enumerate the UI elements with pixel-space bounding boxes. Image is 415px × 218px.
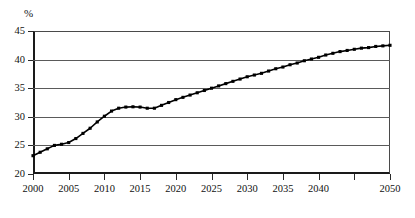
data-point-marker bbox=[74, 137, 77, 140]
data-point-marker bbox=[196, 91, 199, 94]
x-tick-mark bbox=[104, 174, 105, 180]
data-point-marker bbox=[160, 104, 163, 107]
data-point-marker bbox=[46, 147, 49, 150]
x-tick-label: 2030 bbox=[227, 184, 267, 195]
data-point-marker bbox=[31, 154, 34, 157]
data-point-marker bbox=[67, 141, 70, 144]
data-point-marker bbox=[146, 107, 149, 110]
x-tick-mark bbox=[319, 174, 320, 180]
y-tick-label: 25 bbox=[1, 140, 25, 151]
x-tick-mark bbox=[176, 174, 177, 180]
y-axis-unit-label: % bbox=[24, 8, 33, 19]
data-point-marker bbox=[203, 89, 206, 92]
x-tick-mark bbox=[212, 174, 213, 180]
data-point-marker bbox=[89, 127, 92, 130]
y-tick-label: 35 bbox=[1, 83, 25, 94]
data-point-marker bbox=[39, 151, 42, 154]
data-point-marker bbox=[53, 144, 56, 147]
data-point-marker bbox=[317, 56, 320, 59]
data-point-marker bbox=[338, 50, 341, 53]
data-point-marker bbox=[217, 84, 220, 87]
data-point-marker bbox=[324, 53, 327, 56]
line-chart: % 202530354045 2000200520102015202020252… bbox=[0, 0, 415, 218]
x-tick-label: 2035 bbox=[263, 184, 303, 195]
data-point-marker bbox=[181, 96, 184, 99]
x-tick-mark bbox=[247, 174, 248, 180]
data-point-marker bbox=[388, 44, 391, 47]
data-point-marker bbox=[139, 106, 142, 109]
x-tick-mark bbox=[354, 174, 355, 180]
data-point-marker bbox=[367, 46, 370, 49]
data-point-marker bbox=[310, 57, 313, 60]
data-point-marker bbox=[131, 105, 134, 108]
data-point-marker bbox=[381, 44, 384, 47]
x-tick-label: 2050 bbox=[370, 184, 410, 195]
y-tick-label: 45 bbox=[1, 26, 25, 37]
data-point-marker bbox=[260, 72, 263, 75]
data-point-marker bbox=[239, 78, 242, 81]
series-polyline bbox=[33, 45, 390, 155]
x-tick-label: 2025 bbox=[192, 184, 232, 195]
x-tick-label: 2000 bbox=[13, 184, 53, 195]
series-markers bbox=[31, 44, 391, 158]
y-tick-label: 20 bbox=[1, 169, 25, 180]
data-point-marker bbox=[296, 61, 299, 64]
x-tick-mark bbox=[33, 174, 34, 180]
data-point-marker bbox=[267, 69, 270, 72]
data-point-marker bbox=[374, 45, 377, 48]
data-point-marker bbox=[124, 106, 127, 109]
data-point-marker bbox=[189, 94, 192, 97]
data-point-marker bbox=[224, 82, 227, 85]
y-tick-label: 30 bbox=[1, 112, 25, 123]
x-tick-label: 2010 bbox=[84, 184, 124, 195]
data-series-line bbox=[33, 31, 390, 174]
data-point-marker bbox=[288, 63, 291, 66]
x-tick-mark bbox=[390, 174, 391, 180]
data-point-marker bbox=[117, 107, 120, 110]
data-point-marker bbox=[81, 132, 84, 135]
data-point-marker bbox=[103, 115, 106, 118]
data-point-marker bbox=[246, 75, 249, 78]
data-point-marker bbox=[96, 120, 99, 123]
data-point-marker bbox=[174, 98, 177, 101]
x-tick-label: 2020 bbox=[156, 184, 196, 195]
x-tick-mark bbox=[140, 174, 141, 180]
data-point-marker bbox=[110, 110, 113, 113]
data-point-marker bbox=[346, 49, 349, 52]
data-point-marker bbox=[303, 59, 306, 62]
data-point-marker bbox=[281, 65, 284, 68]
x-tick-label: 2005 bbox=[49, 184, 89, 195]
data-point-marker bbox=[167, 101, 170, 104]
x-tick-mark bbox=[69, 174, 70, 180]
data-point-marker bbox=[231, 80, 234, 83]
y-tick-label: 40 bbox=[1, 55, 25, 66]
data-point-marker bbox=[210, 87, 213, 90]
data-point-marker bbox=[153, 107, 156, 110]
data-point-marker bbox=[331, 52, 334, 55]
x-tick-label: 2040 bbox=[299, 184, 339, 195]
data-point-marker bbox=[274, 67, 277, 70]
data-point-marker bbox=[353, 48, 356, 51]
x-tick-label: 2015 bbox=[120, 184, 160, 195]
data-point-marker bbox=[360, 47, 363, 50]
x-tick-mark bbox=[283, 174, 284, 180]
data-point-marker bbox=[60, 143, 63, 146]
data-point-marker bbox=[253, 73, 256, 76]
